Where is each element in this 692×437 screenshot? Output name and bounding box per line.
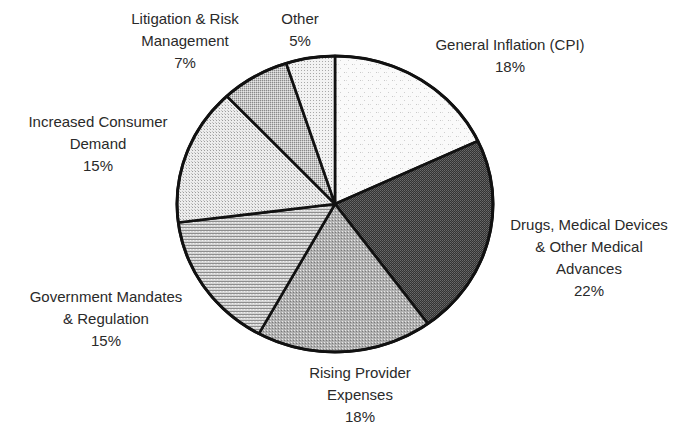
label-percent: 22% [486, 280, 692, 302]
label-text: Expenses [270, 384, 450, 406]
label-text: Advances [486, 258, 692, 280]
label-percent: 15% [6, 330, 206, 352]
pie-slices [177, 56, 493, 352]
label-text: Other [260, 8, 340, 30]
label-rising-provider: Rising Provider Expenses 18% [270, 362, 450, 428]
label-percent: 18% [270, 406, 450, 428]
label-litigation-risk: Litigation & Risk Management 7% [100, 8, 270, 74]
label-text: Management [100, 30, 270, 52]
label-percent: 18% [405, 56, 615, 78]
label-text: & Other Medical [486, 236, 692, 258]
label-other: Other 5% [260, 8, 340, 52]
label-percent: 7% [100, 52, 270, 74]
label-drugs-medical: Drugs, Medical Devices & Other Medical A… [486, 214, 692, 302]
label-text: Drugs, Medical Devices [486, 214, 692, 236]
label-percent: 15% [0, 155, 196, 177]
label-text: Demand [0, 133, 196, 155]
label-text: Government Mandates [6, 286, 206, 308]
label-text: Litigation & Risk [100, 8, 270, 30]
label-government-mandates: Government Mandates & Regulation 15% [6, 286, 206, 352]
label-percent: 5% [260, 30, 340, 52]
label-text: General Inflation (CPI) [405, 34, 615, 56]
label-increased-consumer: Increased Consumer Demand 15% [0, 111, 196, 177]
label-general-inflation: General Inflation (CPI) 18% [405, 34, 615, 78]
label-text: Increased Consumer [0, 111, 196, 133]
label-text: Rising Provider [270, 362, 450, 384]
label-text: & Regulation [6, 308, 206, 330]
